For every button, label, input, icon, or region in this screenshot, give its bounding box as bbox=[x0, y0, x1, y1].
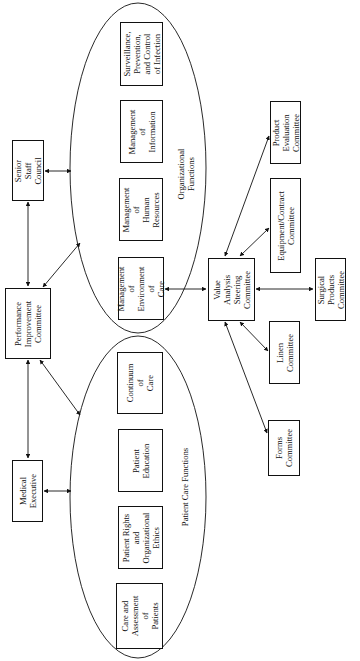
equipment-contract-committee-label: Equipment/Contract Committee bbox=[276, 191, 296, 261]
patient-care-functions-label: Patient Care Functions bbox=[180, 448, 190, 526]
management-of-environment-of-care-box: Management of Environment of Care bbox=[118, 257, 164, 320]
equipment-contract-committee-box: Equipment/Contract Committee bbox=[270, 178, 301, 273]
forms-committee-box: Forms Committee bbox=[268, 420, 300, 476]
medical-executive-box: Medical Executive bbox=[12, 460, 43, 522]
patient-education-box: Patient Education bbox=[118, 429, 163, 492]
management-of-information-label: Management of Information bbox=[127, 109, 157, 154]
senior-staff-council-label: Senior Staff Council bbox=[13, 157, 43, 184]
product-evaluation-committee-label: Product Evaluation Committee bbox=[271, 113, 301, 151]
product-evaluation-committee-box: Product Evaluation Committee bbox=[270, 101, 301, 164]
infection-control-label: Surveillance, Prevention, and Control of… bbox=[122, 31, 162, 76]
care-and-assessment-box: Care and Assessment of Patients bbox=[116, 583, 163, 649]
linen-committee-box: Linen Committee bbox=[269, 321, 300, 384]
patient-rights-box: Patient Rights and Organizational Ethics bbox=[118, 506, 163, 569]
value-analysis-steering-committee-label: Value Analysis Steering Committee bbox=[212, 270, 252, 308]
infection-control-box: Surveillance, Prevention, and Control of… bbox=[120, 22, 163, 86]
management-of-information-box: Management of Information bbox=[120, 100, 163, 163]
org-diagram: Senior Staff Council Performance Improve… bbox=[0, 0, 360, 661]
care-and-assessment-label: Care and Assessment of Patients bbox=[120, 596, 160, 637]
patient-rights-label: Patient Rights and Organizational Ethics bbox=[121, 512, 161, 563]
continuum-of-care-box: Continuum of Care bbox=[117, 352, 163, 414]
continuum-of-care-label: Continuum of Care bbox=[125, 364, 155, 403]
surgical-products-committee-box: Surgical Products Committee bbox=[315, 258, 346, 321]
performance-improvement-committee-box: Performance Improvement Committee bbox=[5, 288, 51, 359]
management-of-human-resources-label: Management of Human Resources bbox=[121, 187, 161, 232]
organizational-functions-label: Organizational Functions bbox=[176, 149, 196, 200]
senior-staff-council-box: Senior Staff Council bbox=[12, 140, 44, 201]
medical-executive-label: Medical Executive bbox=[18, 474, 38, 508]
performance-improvement-committee-label: Performance Improvement Committee bbox=[13, 300, 43, 346]
patient-education-label: Patient Education bbox=[131, 443, 151, 478]
management-of-environment-of-care-label: Management of Environment of Care bbox=[116, 266, 166, 311]
linen-committee-label: Linen Committee bbox=[275, 333, 295, 371]
connector-layer bbox=[0, 0, 360, 661]
management-of-human-resources-box: Management of Human Resources bbox=[119, 178, 163, 241]
value-analysis-steering-committee-box: Value Analysis Steering Committee bbox=[208, 258, 255, 321]
forms-committee-label: Forms Committee bbox=[274, 429, 294, 467]
surgical-products-committee-label: Surgical Products Committee bbox=[316, 270, 346, 308]
